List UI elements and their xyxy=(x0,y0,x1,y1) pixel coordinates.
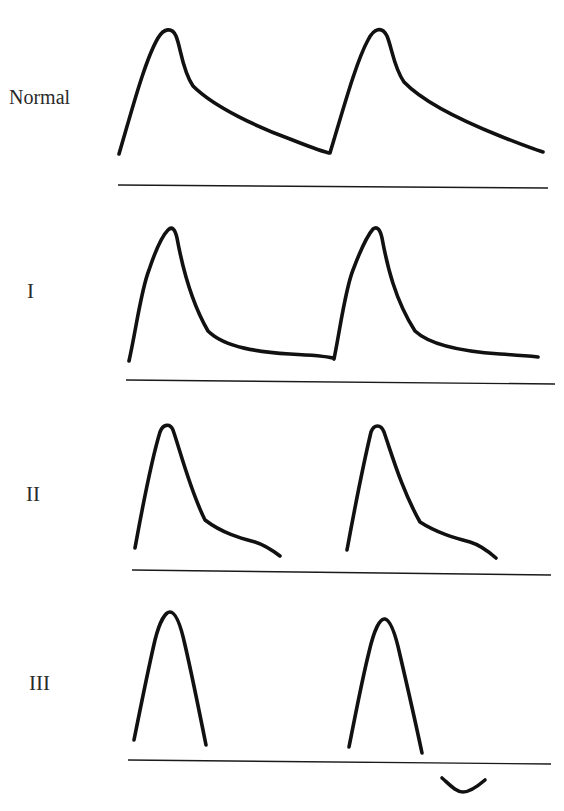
waveform-grade-3 xyxy=(128,612,551,792)
waveform-normal xyxy=(118,30,548,188)
baseline-grade-1 xyxy=(126,380,555,384)
trace-grade-3 xyxy=(134,612,206,745)
trace-grade-1 xyxy=(129,228,538,361)
waveform-grade-1 xyxy=(126,228,555,384)
waveform-diagram xyxy=(0,0,564,811)
baseline-grade-3 xyxy=(128,760,551,764)
waveform-grade-2 xyxy=(132,425,551,575)
trace-grade-2 xyxy=(135,425,280,556)
trace-grade-3-b xyxy=(349,619,422,753)
baseline-normal xyxy=(118,185,548,188)
trace-normal xyxy=(119,30,543,154)
baseline-grade-2 xyxy=(132,570,551,575)
trace-grade-3-undershoot xyxy=(442,778,485,792)
trace-grade-2-b xyxy=(347,426,496,558)
